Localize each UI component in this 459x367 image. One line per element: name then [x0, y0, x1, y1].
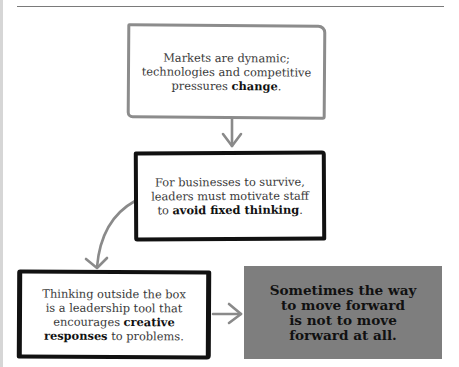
box3-line4: responses to problems. [42, 328, 186, 343]
box-conclusion-highlight: Sometimes the way to move forward is not… [244, 266, 442, 359]
box-markets-dynamic: Markets are dynamic; technologies and co… [127, 23, 327, 119]
box3-emphasis-2: responses [44, 328, 108, 342]
arrow-right-icon [213, 304, 241, 323]
box4-line2: to move forward [270, 298, 417, 313]
arrow-curved-icon [86, 201, 135, 268]
box3-line2: is a leadership tool that [42, 300, 186, 315]
box2-line2: leaders must motivate staff [151, 189, 309, 204]
box2-emphasis: avoid fixed thinking [172, 203, 299, 218]
box3-emphasis-1: creative [124, 315, 175, 329]
box4-line1: Sometimes the way [270, 283, 417, 298]
box-thinking-outside-box: Thinking outside the box is a leadership… [17, 269, 211, 359]
box4-text: Sometimes the way to move forward is not… [264, 283, 423, 343]
box4-line4: forward at all. [270, 328, 417, 343]
box1-line3: pressures change. [142, 78, 312, 93]
box1-line2: technologies and competitive [142, 64, 312, 79]
box2-line1: For businesses to survive, [151, 175, 309, 190]
box2-text: For businesses to survive, leaders must … [145, 175, 315, 218]
box3-text: Thinking outside the box is a leadership… [36, 286, 192, 343]
box3-line3: encourages creative [42, 314, 186, 329]
box-avoid-fixed-thinking: For businesses to survive, leaders must … [134, 150, 326, 241]
box3-line1: Thinking outside the box [42, 286, 186, 301]
box4-line3: is not to move [270, 313, 417, 328]
box1-emphasis: change [232, 79, 278, 93]
arrow-down-icon [223, 119, 241, 146]
box1-line1: Markets are dynamic; [142, 50, 312, 65]
box1-text: Markets are dynamic; technologies and co… [136, 50, 318, 93]
box2-line3: to avoid fixed thinking. [151, 203, 309, 218]
